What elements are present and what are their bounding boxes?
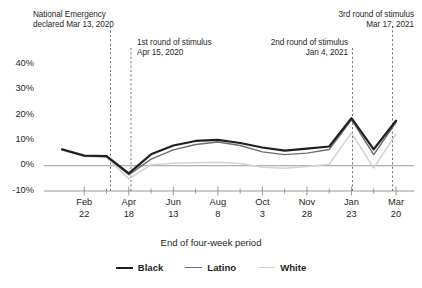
x-tick-label: Mar 20 (376, 197, 416, 220)
legend-label-white: White (280, 262, 306, 273)
legend-swatch-latino-icon (185, 267, 202, 268)
annotation-stimulus-1: 1st round of stimulus Apr 15, 2020 (137, 38, 212, 59)
chart-figure: National Emergency declared Mar 13, 2020… (0, 0, 422, 288)
annotation-stimulus-3: 3rd round of stimulus Mar 17, 2021 (297, 10, 414, 31)
series-line-black (62, 118, 396, 173)
series-line-white (62, 133, 396, 179)
legend-label-latino: Latino (207, 262, 236, 273)
x-tick-label: Jun 13 (153, 197, 193, 220)
x-tick-label: Oct 3 (242, 197, 282, 220)
chart-legend: Black Latino White (0, 262, 422, 273)
x-axis-title: End of four-week period (0, 237, 422, 248)
x-tick-label: Feb 22 (64, 197, 104, 220)
legend-item-black: Black (116, 262, 164, 273)
legend-item-latino: Latino (185, 262, 236, 273)
y-tick-label: 20% (0, 109, 34, 119)
legend-label-black: Black (138, 262, 164, 273)
legend-swatch-white-icon (258, 267, 275, 268)
annotation-national-emergency: National Emergency declared Mar 13, 2020 (33, 10, 114, 31)
x-tick-label: Aug 8 (198, 197, 238, 220)
x-tick-label: Apr 18 (109, 197, 149, 220)
annotation-stimulus-2: 2nd round of stimulus Jan 4, 2021 (248, 38, 348, 59)
y-tick-label: 10% (0, 134, 34, 144)
y-tick-label: 0% (0, 159, 34, 169)
series-line-latino (62, 120, 396, 175)
y-tick-label: 30% (0, 83, 34, 93)
legend-swatch-black-icon (116, 267, 133, 269)
x-tick-label: Jan 23 (331, 197, 371, 220)
x-tick-label: Nov 28 (287, 197, 327, 220)
y-tick-label: 40% (0, 58, 34, 68)
y-tick-label: -10% (0, 185, 34, 195)
legend-item-white: White (258, 262, 306, 273)
